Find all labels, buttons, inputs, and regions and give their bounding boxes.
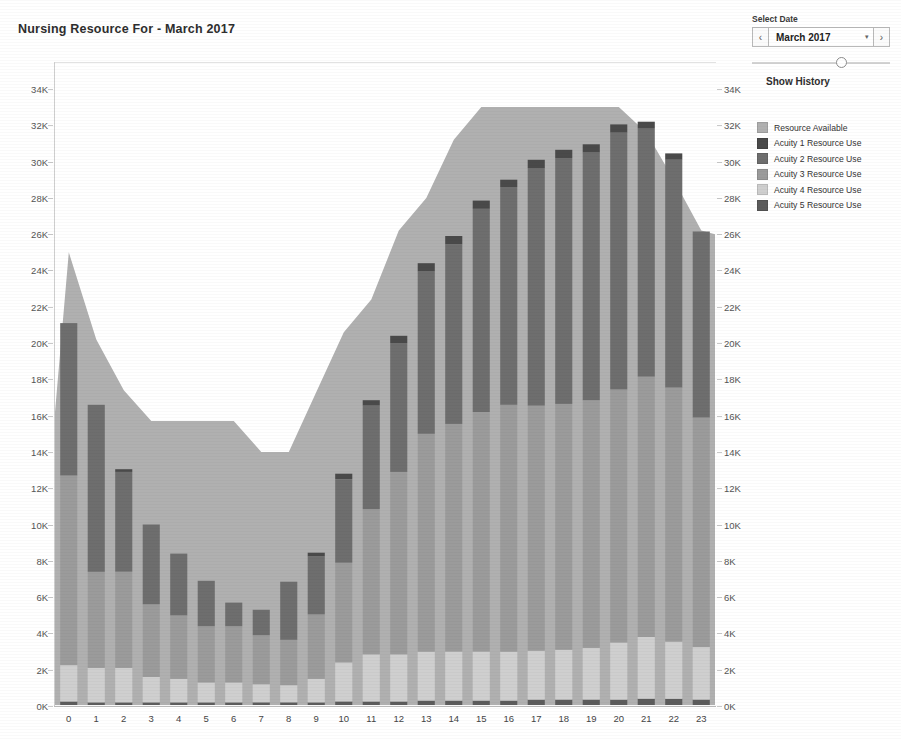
bar-segment[interactable] <box>60 702 77 706</box>
bar-group[interactable] <box>115 469 132 705</box>
bar-group[interactable] <box>60 323 77 705</box>
bar-segment[interactable] <box>665 699 682 705</box>
bar-segment[interactable] <box>170 702 187 705</box>
bar-segment[interactable] <box>555 158 572 404</box>
bar-segment[interactable] <box>528 651 545 700</box>
bar-segment[interactable] <box>390 702 407 706</box>
bar-segment[interactable] <box>308 556 325 614</box>
bar-segment[interactable] <box>528 700 545 705</box>
bar-segment[interactable] <box>610 124 627 132</box>
bar-group[interactable] <box>583 144 600 705</box>
bar-segment[interactable] <box>390 472 407 654</box>
bar-segment[interactable] <box>115 668 132 703</box>
bar-segment[interactable] <box>170 615 187 679</box>
bar-segment[interactable] <box>60 665 77 701</box>
bar-segment[interactable] <box>583 144 600 152</box>
bar-segment[interactable] <box>225 682 242 702</box>
bar-group[interactable] <box>335 474 352 705</box>
bar-segment[interactable] <box>253 610 270 635</box>
bar-segment[interactable] <box>363 654 380 701</box>
bar-group[interactable] <box>225 603 242 705</box>
bar-segment[interactable] <box>280 702 297 705</box>
bar-segment[interactable] <box>280 685 297 702</box>
bar-segment[interactable] <box>335 563 352 663</box>
bar-segment[interactable] <box>88 668 105 703</box>
bar-group[interactable] <box>418 263 435 705</box>
bar-segment[interactable] <box>363 406 380 509</box>
bar-segment[interactable] <box>143 525 160 605</box>
bar-segment[interactable] <box>473 209 490 412</box>
bar-segment[interactable] <box>363 400 380 405</box>
bar-group[interactable] <box>280 582 297 705</box>
bar-segment[interactable] <box>610 389 627 642</box>
bar-segment[interactable] <box>418 701 435 705</box>
legend-item[interactable]: Resource Available <box>757 122 899 133</box>
next-month-button[interactable]: › <box>873 27 890 47</box>
bar-segment[interactable] <box>555 650 572 700</box>
bar-group[interactable] <box>88 405 105 705</box>
bar-segment[interactable] <box>198 702 215 705</box>
bar-segment[interactable] <box>88 702 105 705</box>
bar-segment[interactable] <box>610 133 627 390</box>
bar-segment[interactable] <box>445 424 462 652</box>
bar-segment[interactable] <box>445 244 462 424</box>
bar-segment[interactable] <box>253 684 270 702</box>
bar-segment[interactable] <box>638 637 655 699</box>
bar-segment[interactable] <box>115 469 132 472</box>
bar-segment[interactable] <box>555 404 572 650</box>
bar-segment[interactable] <box>253 702 270 705</box>
bar-segment[interactable] <box>665 160 682 388</box>
bar-segment[interactable] <box>308 553 325 557</box>
bar-segment[interactable] <box>445 701 462 705</box>
bar-group[interactable] <box>473 201 490 705</box>
bar-segment[interactable] <box>473 412 490 652</box>
slider-thumb[interactable] <box>836 57 847 68</box>
bar-segment[interactable] <box>445 236 462 244</box>
bar-segment[interactable] <box>390 654 407 701</box>
prev-month-button[interactable]: ‹ <box>752 27 769 47</box>
bar-segment[interactable] <box>198 581 215 626</box>
bar-segment[interactable] <box>115 702 132 705</box>
bar-segment[interactable] <box>390 336 407 343</box>
bar-segment[interactable] <box>638 128 655 377</box>
bar-segment[interactable] <box>363 702 380 706</box>
bar-segment[interactable] <box>638 699 655 705</box>
bar-segment[interactable] <box>418 652 435 701</box>
bar-segment[interactable] <box>418 263 435 271</box>
bar-segment[interactable] <box>693 700 710 705</box>
bar-segment[interactable] <box>390 343 407 472</box>
bar-group[interactable] <box>693 232 710 706</box>
bar-group[interactable] <box>143 525 160 706</box>
bar-segment[interactable] <box>280 582 297 640</box>
bar-group[interactable] <box>665 153 682 705</box>
bar-segment[interactable] <box>335 662 352 701</box>
bar-segment[interactable] <box>335 479 352 563</box>
bar-segment[interactable] <box>335 702 352 706</box>
bar-segment[interactable] <box>583 648 600 700</box>
bar-segment[interactable] <box>500 701 517 705</box>
bar-segment[interactable] <box>610 643 627 700</box>
bar-group[interactable] <box>198 581 215 705</box>
bar-segment[interactable] <box>693 232 710 418</box>
legend-item[interactable]: Acuity 5 Resource Use <box>757 200 899 211</box>
bar-segment[interactable] <box>500 180 517 187</box>
bar-group[interactable] <box>445 236 462 705</box>
bar-segment[interactable] <box>555 700 572 705</box>
bar-segment[interactable] <box>60 323 77 475</box>
bar-segment[interactable] <box>225 626 242 682</box>
bar-segment[interactable] <box>253 635 270 684</box>
bar-segment[interactable] <box>555 150 572 158</box>
bar-segment[interactable] <box>418 434 435 652</box>
bar-segment[interactable] <box>308 679 325 703</box>
bar-segment[interactable] <box>363 509 380 654</box>
bar-segment[interactable] <box>583 400 600 648</box>
legend-item[interactable]: Acuity 3 Resource Use <box>757 169 899 180</box>
bar-segment[interactable] <box>170 554 187 616</box>
bar-segment[interactable] <box>693 647 710 700</box>
date-picker[interactable]: ‹ March 2017 ▾ › <box>752 27 890 47</box>
bar-segment[interactable] <box>665 153 682 159</box>
bar-segment[interactable] <box>583 700 600 705</box>
bar-segment[interactable] <box>665 388 682 642</box>
bar-segment[interactable] <box>198 682 215 702</box>
bar-segment[interactable] <box>88 572 105 668</box>
